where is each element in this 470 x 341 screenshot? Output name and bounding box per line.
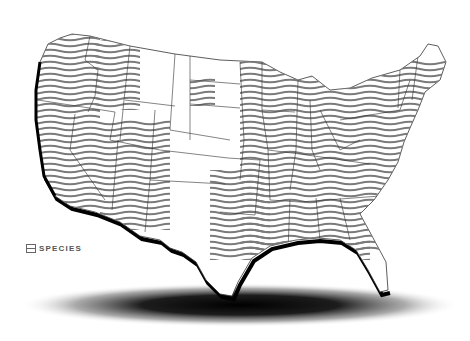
legend: SPECIES — [26, 244, 82, 253]
us-map: SPECIES — [0, 0, 470, 341]
legend-label: SPECIES — [39, 244, 82, 253]
hatch-swatch-icon — [26, 244, 36, 253]
us-map-svg — [0, 0, 470, 341]
